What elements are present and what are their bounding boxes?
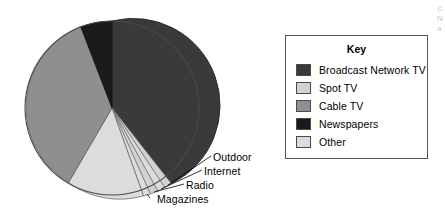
corner-fragment-line-2: N [437, 14, 443, 24]
legend-label-other: Other [319, 136, 346, 148]
legend-label-spot-tv: Spot TV [319, 82, 357, 94]
callout-label-internet: Internet [204, 166, 240, 177]
corner-text-fragment: C N a [437, 4, 443, 34]
legend-item-cable-tv: Cable TV [296, 97, 427, 114]
callout-label-magazines: Magazines [157, 194, 209, 205]
corner-fragment-line-1: C [437, 4, 443, 14]
legend-item-newspapers: Newspapers [296, 115, 427, 132]
legend-title: Key [286, 43, 427, 55]
callout-label-radio: Radio [186, 180, 214, 191]
legend-label-cable-tv: Cable TV [319, 100, 363, 112]
pie-slices [25, 18, 220, 199]
legend-item-spot-tv: Spot TV [296, 79, 427, 96]
legend-swatch-newspapers [296, 118, 311, 130]
corner-fragment-line-3: a [437, 24, 443, 34]
callout-label-outdoor: Outdoor [213, 152, 252, 163]
legend: Key Broadcast Network TV Spot TV Cable T… [285, 35, 428, 159]
legend-item-broadcast-network-tv: Broadcast Network TV [296, 61, 427, 78]
legend-label-newspapers: Newspapers [319, 118, 378, 130]
legend-items: Broadcast Network TV Spot TV Cable TV Ne… [286, 61, 427, 150]
legend-swatch-other [296, 136, 311, 148]
legend-swatch-spot-tv [296, 82, 311, 94]
legend-swatch-broadcast-network-tv [296, 64, 311, 76]
legend-swatch-cable-tv [296, 100, 311, 112]
pie-chart-figure: Outdoor Internet Radio Magazines Key Bro… [0, 0, 445, 222]
legend-item-other: Other [296, 133, 427, 150]
legend-label-broadcast-network-tv: Broadcast Network TV [319, 64, 426, 76]
